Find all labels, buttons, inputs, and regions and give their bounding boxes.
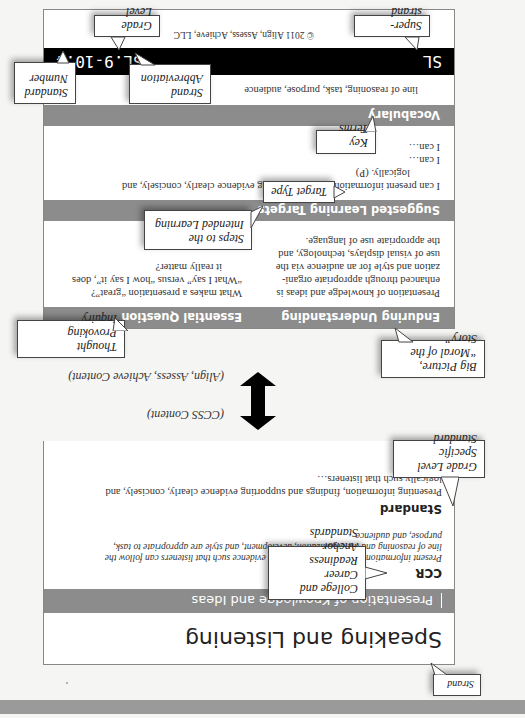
callout-ccr: College and Career Readiness Anchor Stan…: [268, 546, 366, 600]
callout-line: Intended Learning: [152, 218, 244, 232]
enduring-understanding-text: Presentation of knowledge and ideas is e…: [240, 235, 440, 300]
essential-question-text: What makes a presentation “great”? “What…: [52, 261, 242, 300]
learning-target: I can…: [50, 154, 440, 167]
standard-text-line: Presenting information, findings and sup…: [46, 486, 442, 499]
ccr-text-line: line of reasoning and the organization, …: [46, 541, 442, 552]
callout-text: Grade Level: [121, 5, 152, 33]
callout-tail: [437, 476, 459, 506]
learning-target: I can…: [50, 141, 440, 154]
callout-steps: Steps to the Intended Learning: [144, 210, 252, 250]
callout-target-type: Target Type: [263, 181, 335, 203]
eu-line: use of visual displays, technology, and: [240, 248, 440, 261]
rotated-document-page: Speaking and Listening Presentation of K…: [0, 0, 525, 718]
vocabulary-text: line of reasoning, task, purpose, audien…: [244, 84, 418, 97]
callout-tail: [249, 204, 263, 228]
page-edge-bar: [0, 700, 525, 714]
callout-tail: [333, 184, 345, 200]
callout-text: Super-strand: [390, 5, 422, 33]
strand-title: Speaking and Listening: [185, 627, 442, 652]
double-arrow-icon: [240, 372, 276, 430]
callout-tail: [55, 50, 71, 64]
learning-target: logically. (P): [50, 167, 440, 180]
callout-tail: [429, 661, 447, 675]
vocabulary-band: Vocabulary: [44, 105, 454, 126]
standard-label: Standard: [380, 502, 442, 516]
ccss-content-label: (CCSS Content): [147, 407, 224, 422]
learning-target: I can present information and/or support…: [50, 180, 440, 193]
callout-tail: [133, 52, 157, 66]
callout-line: Standard: [22, 86, 68, 100]
callout-tail: [401, 36, 421, 50]
eu-line: Presentation of knowledge and ideas is: [240, 287, 440, 300]
aaa-card: Enduring Understanding Essential Questio…: [43, 9, 455, 329]
callout-text: Target Type: [271, 185, 327, 199]
callout-super-strand: Super-strand: [354, 15, 430, 37]
standard-code-bar: SL SL.9-10.4: [44, 48, 454, 75]
callout-grade-specific: Grade Level Specific Standard: [393, 440, 485, 478]
callout-line: Abbreviation: [137, 72, 203, 86]
eq-line: it really matter?: [52, 261, 242, 274]
callout-line: Big Picture,: [389, 360, 477, 374]
callout-line: College and: [276, 582, 358, 596]
callout-strand: Strand: [433, 674, 481, 696]
scan-speck: [66, 682, 68, 684]
sub-strand-band: Presentation of Knowledge and Ideas: [44, 589, 454, 613]
eq-line: “What I say” versus “how I say it”, does: [52, 274, 242, 287]
callout-tail: [365, 561, 387, 583]
ccr-label: CCR: [415, 566, 442, 580]
copyright: © 2011 Align, Assess, Achieve, LLC: [174, 30, 314, 40]
standard-text: Presenting information, findings and sup…: [46, 473, 442, 499]
callout-line: Steps to the: [152, 232, 244, 246]
callout-text: Strand: [447, 679, 474, 690]
learning-targets-list: I can present information and/or support…: [50, 141, 440, 193]
callout-tail: [393, 327, 413, 343]
callout-tail: [361, 114, 377, 132]
callout-line: Grade Level: [401, 460, 477, 474]
callout-big-picture: Big Picture, “Moral of the Story”: [381, 340, 485, 378]
callout-line: Strand: [137, 86, 203, 100]
aaa-content-label: (Align, Assess, Achieve Content): [68, 369, 224, 384]
callout-key-terms: Key Terms: [316, 130, 376, 154]
enduring-understanding-header: Enduring Understanding: [281, 311, 440, 325]
ccr-text-line: purpose, and audience.: [46, 530, 442, 541]
eq-line: What makes a presentation “great”?: [52, 287, 242, 300]
standard-text-line: logically such that listeners…: [46, 473, 442, 486]
callout-standard-number: Standard Number: [14, 62, 76, 104]
super-strand-code: SL: [423, 52, 442, 71]
callout-line: Anchor Standards: [276, 526, 358, 554]
callout-grade-level: Grade Level: [94, 15, 160, 37]
callout-line: Career Readiness: [276, 554, 358, 582]
callout-tail: [109, 317, 129, 331]
eu-line: the appropriate use of language.: [240, 235, 440, 248]
callout-line: Inquiry: [25, 312, 117, 326]
eu-line: zation and style for an audience via the: [240, 261, 440, 274]
essential-question-header: Essential Question: [121, 311, 242, 325]
eu-line: enhanced through appropriate organi-: [240, 274, 440, 287]
ccr-text: Present information, findings, and suppo…: [46, 530, 442, 563]
callout-line: Thought Provoking: [25, 326, 117, 354]
callout-strand-abbreviation: Strand Abbreviation: [129, 64, 211, 104]
band-divider: [441, 594, 442, 609]
callout-tail: [107, 36, 127, 50]
callout-line: Number: [22, 72, 68, 86]
callout-line: Specific Standard: [401, 432, 477, 460]
